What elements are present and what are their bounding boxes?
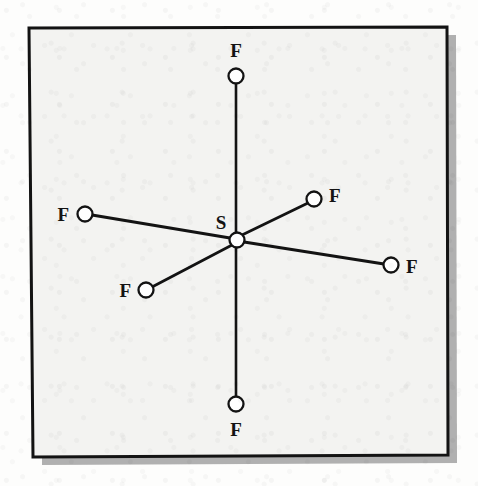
atom-circle-f-bottom xyxy=(229,397,244,412)
atom-label-s-center: S xyxy=(216,212,227,233)
figure-page: S F F F F F F xyxy=(0,0,478,486)
atom-circle-f-top xyxy=(229,69,244,84)
atom-circle-f-right xyxy=(384,258,399,273)
atom-circle-f-lower-left xyxy=(139,283,154,298)
molecular-structure-figure: S F F F F F F xyxy=(0,0,478,486)
atom-label-f-bottom: F xyxy=(230,419,242,440)
atom-label-f-top: F xyxy=(230,40,242,61)
atom-label-f-right: F xyxy=(406,256,418,277)
atom-circle-s-center xyxy=(230,233,245,248)
atom-circle-f-upper-right xyxy=(307,192,322,207)
atom-label-f-lower-left: F xyxy=(119,280,131,301)
atom-circle-f-left xyxy=(78,207,93,222)
atom-label-f-left: F xyxy=(57,204,69,225)
atom-label-f-upper-right: F xyxy=(329,185,341,206)
